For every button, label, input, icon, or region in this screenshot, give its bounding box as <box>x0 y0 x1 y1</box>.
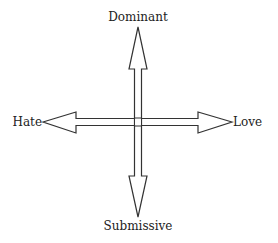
arrow-left-icon <box>43 112 135 133</box>
label-dominant: Dominant <box>108 10 168 24</box>
label-love: Love <box>233 115 262 129</box>
arrow-right-icon <box>142 112 233 133</box>
interpersonal-circumplex-diagram: Dominant Submissive Hate Love <box>0 0 278 243</box>
center-crossing <box>135 119 141 125</box>
label-hate: Hate <box>12 115 42 129</box>
arrow-up-icon <box>129 27 147 118</box>
arrow-down-icon <box>129 126 147 217</box>
label-submissive: Submissive <box>104 219 173 233</box>
